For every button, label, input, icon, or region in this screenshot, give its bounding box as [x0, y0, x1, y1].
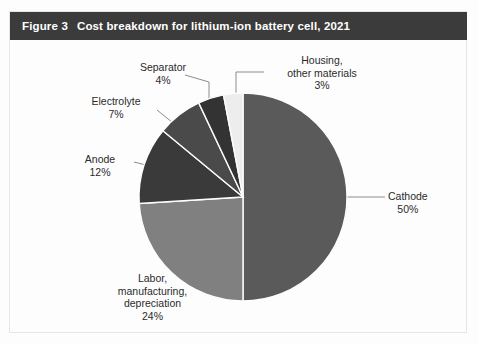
pie-label-labor-line3: depreciation	[80, 297, 225, 310]
pie-label-separator-name: Separator	[128, 61, 198, 74]
pie-label-labor-line2: manufacturing,	[80, 285, 225, 298]
pie-label-electrolyte-name: Electrolyte	[80, 95, 152, 108]
figure-container: Figure 3Cost breakdown for lithium-ion b…	[0, 0, 478, 344]
pie-chart-svg	[10, 40, 467, 333]
pie-label-cathode-value: 50%	[388, 203, 428, 216]
pie-label-housing-value: 3%	[266, 79, 378, 92]
pie-slice-group	[139, 93, 347, 301]
pie-label-electrolyte: Electrolyte 7%	[80, 95, 152, 120]
pie-label-anode-value: 12%	[68, 166, 132, 179]
pie-chart: Cathode 50% Labor, manufacturing, deprec…	[10, 40, 467, 333]
pie-label-cathode: Cathode 50%	[388, 190, 428, 215]
figure-title-bar: Figure 3Cost breakdown for lithium-ion b…	[10, 12, 467, 40]
page-title: Figure 3Cost breakdown for lithium-ion b…	[10, 20, 350, 32]
pie-label-anode: Anode 12%	[68, 153, 132, 178]
pie-label-housing-line2: other materials	[266, 67, 378, 80]
pie-label-labor-line1: Labor,	[80, 272, 225, 285]
pie-label-electrolyte-value: 7%	[80, 108, 152, 121]
pie-label-labor: Labor, manufacturing, depreciation 24%	[80, 272, 225, 322]
figure-title: Cost breakdown for lithium-ion battery c…	[77, 20, 350, 32]
pie-slice-cathode	[243, 93, 347, 301]
pie-label-separator: Separator 4%	[128, 61, 198, 86]
pie-label-anode-name: Anode	[68, 153, 132, 166]
pie-label-cathode-name: Cathode	[388, 190, 428, 203]
pie-label-housing-line1: Housing,	[266, 54, 378, 67]
pie-label-separator-value: 4%	[128, 74, 198, 87]
pie-label-housing: Housing, other materials 3%	[266, 54, 378, 92]
pie-label-labor-value: 24%	[80, 310, 225, 323]
figure-number: Figure 3	[22, 20, 68, 32]
